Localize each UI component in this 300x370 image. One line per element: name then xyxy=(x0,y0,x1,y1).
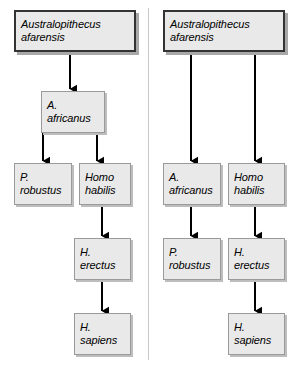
taxon-label-line1: P. xyxy=(20,171,71,184)
taxon-box-right-africanus: A.africanus xyxy=(163,163,221,205)
taxon-label-line1: Australopithecus xyxy=(170,18,283,31)
taxon-box-left-erectus: H.erectus xyxy=(74,238,131,280)
taxon-label-line1: Australopithecus xyxy=(21,18,134,31)
taxon-box-left-sapiens: H.sapiens xyxy=(74,313,131,355)
taxon-label-line2: habilis xyxy=(234,184,284,197)
taxon-label-line1: H. xyxy=(80,321,130,334)
taxon-box-left-africanus: A.africanus xyxy=(41,91,105,133)
taxon-label-line2: habilis xyxy=(85,184,130,197)
taxon-label-line1: H. xyxy=(80,246,130,259)
taxon-label-line1: H. xyxy=(234,246,284,259)
taxon-label-line2: afarensis xyxy=(21,31,134,44)
taxon-label-line2: erectus xyxy=(80,259,130,272)
taxon-label-line1: P. xyxy=(169,246,220,259)
taxon-box-right-sapiens: H.sapiens xyxy=(228,313,285,355)
taxon-box-right-afarensis: Australopithecusafarensis xyxy=(163,10,285,52)
taxon-label-line1: H. xyxy=(234,321,284,334)
taxon-box-right-erectus: H.erectus xyxy=(228,238,285,280)
taxon-label-line1: A. xyxy=(169,171,220,184)
taxon-label-line2: sapiens xyxy=(234,334,284,347)
arrow-africanus-to-robustus xyxy=(43,133,70,161)
taxon-box-right-habilis: Homohabilis xyxy=(228,163,285,205)
taxon-label-line2: sapiens xyxy=(80,334,130,347)
taxon-label-line2: robustus xyxy=(169,259,220,272)
taxon-label-line1: A. xyxy=(47,99,104,112)
taxon-label-line2: africanus xyxy=(169,184,220,197)
taxon-label-line2: afarensis xyxy=(170,31,283,44)
taxon-box-left-robustus: P.robustus xyxy=(14,163,72,205)
taxon-label-line1: Homo xyxy=(85,171,130,184)
taxon-label-line2: erectus xyxy=(234,259,284,272)
taxon-label-line2: africanus xyxy=(47,112,104,125)
taxon-box-right-robustus: P.robustus xyxy=(163,238,221,280)
taxon-label-line1: Homo xyxy=(234,171,284,184)
diagram-canvas: AustralopithecusafarensisA.africanusP.ro… xyxy=(0,0,300,370)
taxon-box-left-afarensis: Australopithecusafarensis xyxy=(14,10,136,52)
panel-divider xyxy=(148,8,149,360)
taxon-label-line2: robustus xyxy=(20,184,71,197)
taxon-box-left-habilis: Homohabilis xyxy=(79,163,131,205)
